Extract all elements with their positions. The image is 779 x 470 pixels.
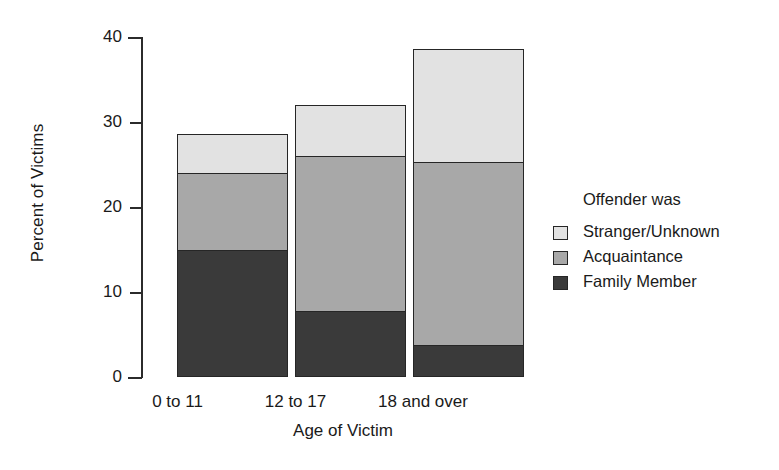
bar-segment-stranger-unknown[interactable] [177,134,288,175]
y-tick-30 [130,122,142,124]
bar-group-0-to-11[interactable] [177,22,288,380]
bar-segment-stranger-unknown[interactable] [413,49,524,164]
y-tick-label-0: 0 [74,367,122,387]
bar-segment-stranger-unknown[interactable] [295,105,406,157]
y-tick-10 [130,292,142,294]
y-tick-label-20: 20 [74,197,122,217]
y-tick-label-40: 40 [74,27,122,47]
x-tick-label-2: 18 and over [358,392,488,412]
stacked-bar-chart: Percent of Victims 40 30 20 10 0 0 to 11… [0,0,779,470]
stacked-bar-2[interactable] [413,49,524,381]
legend-label-acquaintance: Acquaintance [583,247,683,266]
legend-swatch-icon-family-member [553,276,568,290]
x-tick-label-0: 0 to 11 [122,392,233,412]
stacked-bar-0[interactable] [177,134,288,381]
bar-group-12-to-17[interactable] [295,22,406,380]
legend-swatch-icon-acquaintance [553,251,568,265]
stacked-bar-1[interactable] [295,105,406,380]
legend-label-family-member: Family Member [583,272,697,291]
legend-label-stranger-unknown: Stranger/Unknown [583,222,720,241]
bar-segment-acquaintance[interactable] [177,173,288,252]
legend-title: Offender was [583,190,681,209]
y-tick-20 [130,207,142,209]
x-tick-label-1: 12 to 17 [240,392,351,412]
y-tick-0 [128,377,142,379]
bar-segment-family-member[interactable] [295,311,406,377]
plot-area [143,20,543,380]
bar-segment-family-member[interactable] [413,345,524,377]
bar-group-18-and-over[interactable] [413,22,524,380]
bar-segment-family-member[interactable] [177,250,288,377]
y-tick-label-30: 30 [74,112,122,132]
y-tick-label-10: 10 [74,282,122,302]
bar-segment-acquaintance[interactable] [413,162,524,346]
x-axis-title: Age of Victim [143,421,543,441]
legend-swatch-icon-stranger-unknown [553,226,568,240]
bar-segment-acquaintance[interactable] [295,156,406,312]
y-axis-title: Percent of Victims [28,93,48,293]
y-tick-40 [128,37,142,39]
